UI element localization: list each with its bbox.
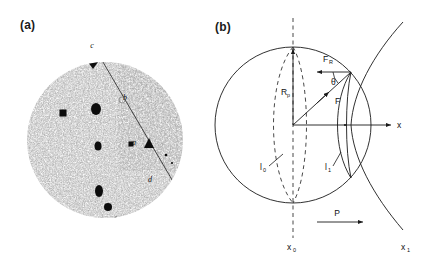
end-x-label-subscript: 1 [407, 247, 410, 253]
angle-label: θ [331, 77, 336, 87]
origin-x-label-subscript: 0 [293, 247, 296, 253]
origin-x-label: x [287, 242, 292, 252]
diagram-svg: R p F R θ F x l 0 l 1 P x 0 x 1 [205, 0, 422, 256]
micrograph-spot [165, 154, 168, 157]
axis-x-label: x [397, 120, 402, 130]
interface-curve [351, 22, 403, 230]
panel-a-micrograph: c b a d [0, 0, 211, 256]
micrograph-spot [104, 203, 112, 211]
length-l1-label: l [325, 162, 327, 172]
leader-l0 [269, 154, 283, 166]
axis-tick-dot [344, 124, 346, 126]
micrograph-label-c: c [90, 41, 94, 50]
micrograph-spot [115, 217, 118, 220]
leader-l1 [333, 152, 341, 166]
micrograph-spot [95, 142, 102, 151]
force-radial-label-subscript: R [329, 59, 333, 65]
micrograph-spot [171, 162, 173, 164]
force-radial-label: F [323, 54, 328, 64]
panel-b-diagram: R p F R θ F x l 0 l 1 P x 0 x 1 [205, 0, 422, 256]
end-x-label: x [401, 242, 406, 252]
micrograph-label-b: b [123, 93, 127, 102]
force-label: F [335, 96, 340, 106]
radius-label-subscript: p [287, 92, 290, 98]
lens-l0-left-arc [274, 47, 294, 203]
micrograph-spot [95, 185, 103, 197]
micrograph-spot [28, 93, 32, 97]
micrograph-svg: c b a d [0, 0, 211, 256]
length-l0-label: l [260, 162, 262, 172]
micrograph-spot [91, 103, 101, 115]
pressure-label: P [334, 208, 340, 218]
figure-container: (a) (b) [0, 0, 422, 256]
micrograph-disc [0, 0, 211, 256]
micrograph-label-a: a [132, 138, 136, 147]
length-l0-label-subscript: 0 [263, 167, 266, 173]
length-l1-label-subscript: 1 [328, 167, 331, 173]
force-arrow [317, 92, 329, 103]
micrograph-spot [60, 110, 67, 117]
